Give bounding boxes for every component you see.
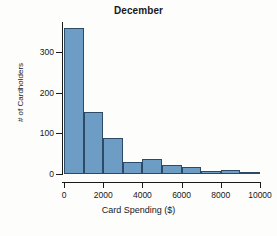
x-tick-label: 4000	[122, 190, 162, 200]
histogram-bar	[103, 138, 123, 174]
histogram-bar	[142, 159, 162, 174]
x-tick-label: 8000	[201, 190, 241, 200]
histogram-bar	[123, 162, 143, 174]
y-tick-label: 200	[22, 88, 54, 98]
x-tick-mark	[221, 182, 222, 188]
plot-area	[64, 22, 260, 174]
x-tick-label: 6000	[162, 190, 202, 200]
y-axis-line	[62, 22, 63, 175]
x-tick-mark	[260, 182, 261, 188]
histogram-bar	[64, 28, 84, 174]
x-tick-label: 2000	[83, 190, 123, 200]
histogram-bar	[84, 112, 104, 174]
histogram-figure: December 0100200300 02000400060008000100…	[0, 0, 277, 236]
y-tick-label: 0	[22, 169, 54, 179]
chart-title: December	[0, 5, 277, 16]
y-tick-mark	[56, 133, 63, 134]
x-tick-mark	[142, 182, 143, 188]
y-tick-mark	[56, 174, 63, 175]
y-tick-mark	[56, 52, 63, 53]
y-tick-label: 100	[22, 128, 54, 138]
histogram-bar	[182, 167, 202, 174]
x-tick-mark	[64, 182, 65, 188]
y-tick-label: 300	[22, 47, 54, 57]
x-tick-label: 10000	[240, 190, 277, 200]
histogram-bar	[240, 172, 260, 174]
x-axis-line	[62, 182, 260, 183]
x-tick-mark	[103, 182, 104, 188]
histogram-bar	[162, 165, 182, 174]
y-tick-mark	[56, 93, 63, 94]
x-axis-title: Card Spending ($)	[0, 205, 277, 215]
x-tick-label: 0	[44, 190, 84, 200]
histogram-bar	[201, 171, 221, 174]
histogram-bar	[221, 170, 241, 174]
x-tick-mark	[182, 182, 183, 188]
y-axis-title: # of Cardholders	[16, 43, 25, 143]
bars-layer	[64, 22, 260, 174]
